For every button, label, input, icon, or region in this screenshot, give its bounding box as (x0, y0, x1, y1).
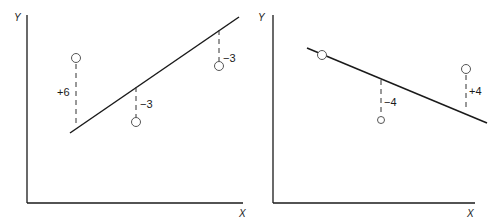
right-x-label: X (466, 208, 474, 219)
right-plot: Y X −4 +4 (258, 12, 487, 219)
left-x-label: X (238, 208, 246, 219)
right-point-3 (462, 65, 471, 74)
residual-diagrams: Y X +6 −3 −3 Y X −4 +4 (0, 0, 497, 223)
left-point-2 (132, 118, 141, 127)
right-residual-label-2: −4 (384, 96, 397, 108)
left-regression-line (70, 17, 239, 133)
right-residual-label-3: +4 (469, 85, 482, 97)
left-residual-label-2: −3 (140, 98, 153, 110)
left-residual-label-3: −3 (223, 52, 236, 64)
right-y-label: Y (258, 12, 266, 23)
right-point-2 (378, 117, 385, 124)
right-point-1 (318, 51, 327, 60)
left-plot: Y X +6 −3 −3 (14, 12, 246, 219)
left-point-1 (72, 54, 81, 63)
left-residual-label-1: +6 (57, 86, 70, 98)
left-y-label: Y (14, 12, 22, 23)
right-regression-line (307, 48, 487, 123)
